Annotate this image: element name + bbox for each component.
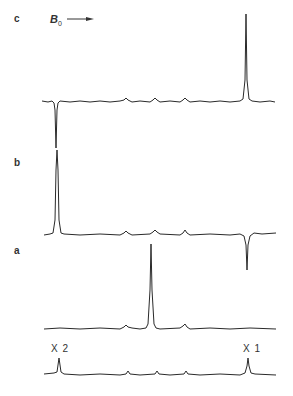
- spectrum-a: [44, 244, 276, 329]
- spectra-figure: [0, 0, 293, 396]
- spectrum-b: [44, 150, 276, 270]
- caption-fragment: [40, 388, 280, 396]
- reference-spectrum: [44, 358, 276, 375]
- arrow-right-icon: [67, 17, 94, 21]
- spectrum-c: [42, 14, 275, 148]
